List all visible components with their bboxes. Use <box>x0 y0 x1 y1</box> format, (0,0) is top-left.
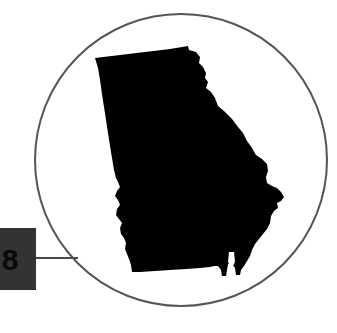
label-box-text: 8 <box>2 243 19 276</box>
figure-canvas: 8 <box>0 0 337 333</box>
map-callout-graphic: 8 <box>0 0 337 333</box>
southeast-river-notch <box>228 252 235 266</box>
